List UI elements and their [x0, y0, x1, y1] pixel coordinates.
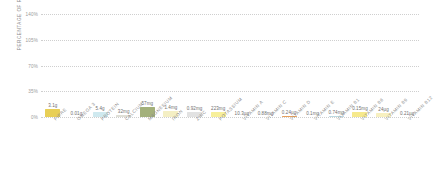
bar-value-label: 24µg — [378, 107, 389, 112]
bar-value-label: 0.92mg — [187, 106, 203, 111]
bar-slot[interactable]: 0.92mg — [183, 14, 207, 117]
bar-value-label: 0.15mg — [352, 106, 368, 111]
bar-value-label: 223mg — [211, 106, 225, 111]
bar-value-label: 1.4mg — [164, 105, 177, 110]
bar-value-label: 3.1g — [48, 103, 57, 108]
y-axis-tick-label: 105% — [25, 37, 38, 42]
bar-slot[interactable]: 0.01g — [65, 14, 89, 117]
bar-slot[interactable]: 223mg — [206, 14, 230, 117]
y-axis-tick-label: 35% — [28, 89, 38, 94]
y-axis-tick-label: 140% — [25, 12, 38, 17]
plot-area: 0%35%70%105%140% 3.1g0.01g5.4g32mg57mg1.… — [41, 14, 419, 117]
bars-group: 3.1g0.01g5.4g32mg57mg1.4mg0.92mg223mg10.… — [41, 14, 419, 117]
bar-value-label: 5.4g — [95, 106, 104, 111]
y-axis-tick-label: 70% — [28, 63, 38, 68]
y-axis-tick-label: 0% — [31, 115, 38, 120]
bar-slot[interactable]: 3.1g — [41, 14, 65, 117]
y-axis-title: PERCENTAGE OF RDA — [17, 0, 22, 73]
x-axis-labels-group: FIBREOMEGA 3PROTEINCALCIUMMAGNESIUMIRONZ… — [41, 118, 419, 169]
